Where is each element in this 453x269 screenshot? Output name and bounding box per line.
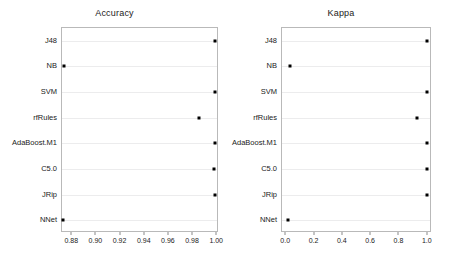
data-point	[62, 65, 65, 68]
x-axis-tick-label: 0.8	[394, 237, 404, 244]
data-point	[213, 142, 216, 145]
panel-accuracy: Accuracy J48NBSVMrfRulesAdaBoost.M1C5.0J…	[0, 0, 229, 269]
x-axis-tick-mark	[95, 232, 96, 235]
x-axis-tick-label: 0.0	[280, 237, 290, 244]
plot-area-kappa	[281, 27, 431, 232]
data-point	[213, 91, 216, 94]
y-axis-tick-label: NB	[47, 61, 57, 70]
data-point	[426, 142, 429, 145]
y-axis-tick-label: J48	[265, 35, 277, 44]
data-point	[61, 219, 64, 222]
data-point	[416, 116, 419, 119]
gridline-row	[282, 143, 430, 144]
x-axis-tick-label: 0.98	[185, 237, 199, 244]
x-axis-tick-label: 0.4	[337, 237, 347, 244]
y-axis-tick-label: AdaBoost.M1	[232, 138, 277, 147]
y-axis-tick-label: NNet	[40, 215, 57, 224]
panel-title-accuracy: Accuracy	[0, 8, 229, 18]
y-axis-tick-label: rfRules	[253, 112, 277, 121]
y-axis-tick-label: SVM	[41, 87, 57, 96]
data-point	[198, 116, 201, 119]
data-point	[286, 219, 289, 222]
gridline-row	[282, 220, 430, 221]
data-point	[288, 65, 291, 68]
gridline-row	[282, 92, 430, 93]
y-axis-tick-label: JRip	[42, 189, 57, 198]
y-axis-tick-label: J48	[45, 35, 57, 44]
gridline-row	[62, 169, 217, 170]
gridline-row	[282, 66, 430, 67]
x-axis-tick-label: 0.88	[64, 237, 78, 244]
data-point	[426, 91, 429, 94]
x-axis-tick-mark	[216, 232, 217, 235]
panel-title-kappa: Kappa	[229, 8, 453, 18]
x-axis-tick-label: 0.6	[365, 237, 375, 244]
x-axis-tick-label: 1.00	[209, 237, 223, 244]
y-axis-tick-label: NNet	[260, 215, 277, 224]
x-axis-tick-mark	[426, 232, 427, 235]
gridline-row	[282, 195, 430, 196]
y-axis-tick-label: JRip	[262, 189, 277, 198]
data-point	[213, 193, 216, 196]
gridline-row	[62, 92, 217, 93]
x-axis-tick-mark	[313, 232, 314, 235]
gridline-row	[62, 66, 217, 67]
x-axis-tick-label: 0.96	[161, 237, 175, 244]
gridline-row	[62, 143, 217, 144]
x-axis-tick-label: 1.0	[422, 237, 432, 244]
data-point	[212, 167, 215, 170]
data-point	[426, 193, 429, 196]
gridline-row	[282, 41, 430, 42]
y-axis-tick-label: NB	[267, 61, 277, 70]
data-point	[213, 39, 216, 42]
y-axis-tick-label: AdaBoost.M1	[12, 138, 57, 147]
x-axis-tick-label: 0.92	[113, 237, 127, 244]
x-axis-tick-label: 0.94	[137, 237, 151, 244]
x-axis-tick-mark	[192, 232, 193, 235]
x-axis-tick-mark	[370, 232, 371, 235]
x-axis-tick-mark	[167, 232, 168, 235]
gridline-row	[62, 195, 217, 196]
x-axis-tick-mark	[285, 232, 286, 235]
x-axis-tick-mark	[341, 232, 342, 235]
y-axis-tick-label: C5.0	[261, 163, 277, 172]
gridline-row	[62, 220, 217, 221]
x-axis-tick-mark	[71, 232, 72, 235]
x-axis-tick-mark	[143, 232, 144, 235]
dotplot-figure: Accuracy J48NBSVMrfRulesAdaBoost.M1C5.0J…	[0, 0, 453, 269]
x-axis-tick-mark	[119, 232, 120, 235]
y-axis-tick-label: SVM	[261, 87, 277, 96]
x-axis-tick-label: 0.90	[89, 237, 103, 244]
y-axis-tick-label: rfRules	[33, 112, 57, 121]
plot-area-accuracy	[61, 27, 218, 232]
data-point	[426, 167, 429, 170]
panel-kappa: Kappa J48NBSVMrfRulesAdaBoost.M1C5.0JRip…	[229, 0, 453, 269]
x-axis-tick-mark	[398, 232, 399, 235]
data-point	[426, 39, 429, 42]
gridline-row	[62, 118, 217, 119]
y-axis-tick-label: C5.0	[41, 163, 57, 172]
gridline-row	[282, 118, 430, 119]
gridline-row	[282, 169, 430, 170]
gridline-row	[62, 41, 217, 42]
x-axis-tick-label: 0.2	[309, 237, 319, 244]
